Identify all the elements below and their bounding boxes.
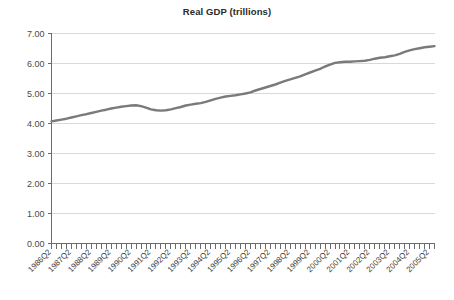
y-axis-tick-label: 5.00: [27, 89, 45, 99]
y-axis-tick-label: 1.00: [27, 209, 45, 219]
y-axis-tick-label: 4.00: [27, 119, 45, 129]
y-axis-tick-label: 3.00: [27, 149, 45, 159]
y-axis-tick-label: 2.00: [27, 179, 45, 189]
y-axis-tick-label: 7.00: [27, 29, 45, 39]
data-series-line: [52, 46, 435, 121]
line-chart-plot: 0.001.002.003.004.005.006.007.001986Q219…: [0, 0, 454, 300]
y-axis-tick-label: 6.00: [27, 59, 45, 69]
chart-container: Real GDP (trillions) 0.001.002.003.004.0…: [0, 0, 454, 300]
y-axis-tick-label: 0.00: [27, 239, 45, 249]
x-axis-tick-label: 2005Q2: [404, 247, 431, 274]
